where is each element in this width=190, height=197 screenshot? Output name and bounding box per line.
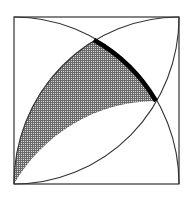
geometry-diagram <box>0 0 190 197</box>
shaded-region <box>14 40 156 184</box>
